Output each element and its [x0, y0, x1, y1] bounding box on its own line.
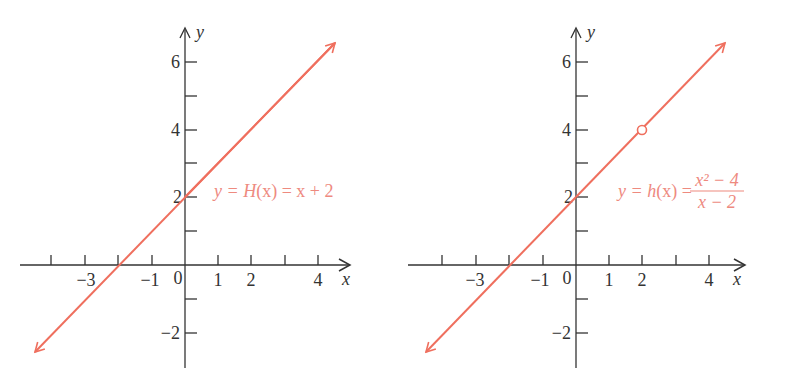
left-x-axis-name: x	[341, 269, 350, 289]
right-chart: −3 −1 0 1 2 4 x 6 4 2 −2 y y = h(x) = x²…	[408, 22, 745, 368]
left-x-tick-label: 4	[314, 270, 323, 290]
right-y-tick-label: 4	[562, 120, 571, 140]
right-x-tick-label: −3	[465, 270, 484, 290]
right-y-axis-name: y	[585, 22, 595, 42]
right-x-tick-label: 1	[605, 270, 614, 290]
right-x-tick-label: 2	[638, 270, 647, 290]
left-equation: y = H(x) = x + 2	[212, 181, 333, 202]
right-y-axis	[571, 28, 588, 368]
figure: −3 −1 0 1 2 4 x 6 4 2 −2 y y = H(x) = x …	[0, 0, 790, 378]
fraction-numerator: x² − 4	[694, 170, 739, 190]
left-chart: −3 −1 0 1 2 4 x 6 4 2 −2 y y = H(x) = x …	[20, 22, 350, 368]
right-y-tick-label: 6	[562, 52, 571, 72]
left-x-tick-label: 2	[247, 270, 256, 290]
right-y-tick-label: −2	[552, 323, 571, 343]
right-x-axis-name: x	[732, 269, 741, 289]
left-x-tick-label: 1	[214, 270, 223, 290]
open-point-hole	[638, 126, 647, 135]
left-y-axis	[180, 28, 197, 368]
left-x-tick-label: −3	[76, 270, 95, 290]
right-x-tick-label: 0	[563, 268, 572, 288]
left-x-tick-label: −1	[140, 270, 159, 290]
left-y-tick-label: −2	[161, 323, 180, 343]
left-y-tick-label: 4	[171, 120, 180, 140]
svg-text:y = h(x) =: y = h(x) =	[616, 181, 692, 202]
right-equation: y = h(x) = x² − 4 x − 2	[616, 170, 744, 212]
left-y-tick-label: 6	[171, 52, 180, 72]
right-x-tick-label: −1	[530, 270, 549, 290]
left-x-tick-label: 0	[174, 268, 183, 288]
fraction-denominator: x − 2	[697, 192, 736, 212]
right-x-tick-label: 4	[705, 270, 714, 290]
left-y-axis-name: y	[194, 22, 204, 42]
